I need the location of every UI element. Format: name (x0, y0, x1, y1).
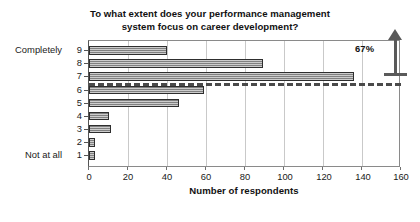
x-axis-tick-label-60: 60 (191, 171, 221, 182)
bar-row (89, 136, 95, 149)
x-axis-title: Number of respondents (88, 185, 400, 196)
gridline-120 (323, 41, 324, 166)
chart-title-line-1: To what extent does your performance man… (0, 7, 420, 20)
reference-line-67-percent (89, 83, 401, 86)
bar-6 (89, 86, 204, 95)
x-axis-tick-label-160: 160 (386, 171, 416, 182)
x-axis-tick-mark (205, 167, 206, 170)
x-axis-tick-mark (400, 167, 401, 170)
gridline-140 (362, 41, 363, 166)
percentage-annotation: 67% (355, 43, 374, 54)
x-axis-tick-label-0: 0 (74, 171, 104, 182)
arrow-shaft (394, 37, 397, 74)
y-axis-scale-label-bottom: Not at all (0, 150, 62, 160)
bar-row (89, 70, 354, 83)
gridline-100 (284, 41, 285, 166)
y-axis-tick-label-7: 7 (66, 71, 82, 81)
bar-7 (89, 72, 354, 81)
bar-row (89, 149, 95, 162)
bar-2 (89, 138, 95, 147)
y-axis-tick-label-4: 4 (66, 111, 82, 121)
chart-title: To what extent does your performance man… (0, 7, 420, 33)
y-axis-tick-label-3: 3 (66, 124, 82, 134)
x-axis-tick-mark (88, 167, 89, 170)
y-axis-tick-label-1: 1 (66, 150, 82, 160)
y-axis-tick-label-2: 2 (66, 137, 82, 147)
chart-title-line-2: system focus on career development? (0, 20, 420, 33)
x-axis-tick-label-20: 20 (113, 171, 143, 182)
arrow-base (384, 73, 407, 76)
y-axis-tick-label-6: 6 (66, 85, 82, 95)
x-axis-tick-label-80: 80 (230, 171, 260, 182)
bar-5 (89, 99, 179, 108)
bar-row (89, 123, 111, 136)
bar-row (89, 110, 109, 123)
x-axis-tick-mark (244, 167, 245, 170)
x-axis-tick-mark (166, 167, 167, 170)
x-axis-tick-mark (127, 167, 128, 170)
bar-row (89, 44, 167, 57)
bar-3 (89, 125, 111, 134)
x-axis-tick-mark (361, 167, 362, 170)
bar-4 (89, 112, 109, 121)
x-axis-tick-mark (322, 167, 323, 170)
bar-1 (89, 151, 95, 160)
bar-9 (89, 46, 167, 55)
x-axis-tick-label-140: 140 (348, 171, 378, 182)
bar-chart: To what extent does your performance man… (0, 0, 420, 222)
plot-area (88, 40, 400, 167)
y-axis-scale-label-top: Completely (0, 45, 62, 55)
bar-row (89, 57, 263, 70)
x-axis-tick-mark (283, 167, 284, 170)
y-axis-tick-label-9: 9 (66, 45, 82, 55)
x-axis-tick-label-40: 40 (152, 171, 182, 182)
y-axis-tick-label-8: 8 (66, 58, 82, 68)
x-axis-tick-label-120: 120 (309, 171, 339, 182)
upward-arrow-icon (377, 27, 417, 83)
bar-8 (89, 59, 263, 68)
bar-row (89, 97, 179, 110)
x-axis-tick-label-100: 100 (270, 171, 300, 182)
y-axis-tick-label-5: 5 (66, 98, 82, 108)
